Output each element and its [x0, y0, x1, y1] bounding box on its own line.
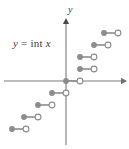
open-endpoint-dot: [77, 78, 83, 84]
step-segment: [9, 126, 29, 132]
step-segment: [63, 78, 83, 84]
closed-endpoint-dot: [101, 30, 107, 36]
step-segment: [91, 42, 111, 48]
y-axis-label: y: [68, 4, 72, 15]
closed-endpoint-dot: [77, 66, 83, 72]
open-endpoint-dot: [63, 90, 69, 96]
closed-endpoint-dot: [77, 54, 83, 60]
open-endpoint-dot: [35, 114, 41, 120]
step-function-figure: y=intx y: [0, 0, 129, 149]
equation-label: y=intx: [13, 37, 51, 49]
step-segment: [35, 102, 55, 108]
equation-function-name: int: [31, 37, 43, 49]
step-segment: [77, 54, 97, 60]
open-endpoint-dot: [49, 102, 55, 108]
closed-endpoint-dot: [21, 114, 27, 120]
closed-endpoint-dot: [49, 90, 55, 96]
open-endpoint-dot: [23, 126, 29, 132]
equation-equals: =: [21, 37, 27, 49]
y-axis-arrowhead: [63, 18, 69, 24]
step-segment: [21, 114, 41, 120]
closed-endpoint-dot: [91, 42, 97, 48]
open-endpoint-dot: [91, 54, 97, 60]
step-segment: [49, 90, 69, 96]
x-axis-arrowhead: [121, 78, 127, 84]
equation-lhs: y: [13, 37, 18, 49]
closed-endpoint-dot: [9, 126, 15, 132]
step-function-plot: [0, 0, 129, 149]
open-endpoint-dot: [105, 42, 111, 48]
closed-endpoint-dot: [63, 78, 69, 84]
closed-endpoint-dot: [35, 102, 41, 108]
step-segment: [77, 66, 97, 72]
equation-argument: x: [46, 37, 51, 49]
open-endpoint-dot: [91, 66, 97, 72]
step-segment: [101, 30, 121, 36]
open-endpoint-dot: [115, 30, 121, 36]
